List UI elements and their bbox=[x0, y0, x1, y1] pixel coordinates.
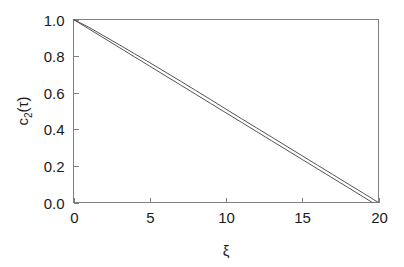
x-tick-label-0: 0 bbox=[70, 209, 78, 226]
y-tick-label-1: 0.2 bbox=[44, 158, 65, 175]
line-chart: 05101520 0.00.20.40.60.81.0 ξ c2(τ) bbox=[0, 0, 404, 267]
y-tick-label-5: 1.0 bbox=[44, 12, 65, 29]
y-tick-label-2: 0.4 bbox=[44, 121, 65, 138]
y-tick-label-0: 0.0 bbox=[44, 195, 65, 212]
chart-figure: 05101520 0.00.20.40.60.81.0 ξ c2(τ) bbox=[0, 0, 404, 267]
x-tick-label-4: 20 bbox=[371, 209, 388, 226]
x-tick-label-2: 10 bbox=[218, 209, 235, 226]
x-tick-label-1: 5 bbox=[146, 209, 154, 226]
x-tick-label-3: 15 bbox=[294, 209, 311, 226]
y-axis-title-suffix: (τ) bbox=[14, 97, 31, 113]
y-tick-label-3: 0.6 bbox=[44, 85, 65, 102]
y-tick-label-4: 0.8 bbox=[44, 48, 65, 65]
x-axis-title: ξ bbox=[223, 242, 230, 259]
